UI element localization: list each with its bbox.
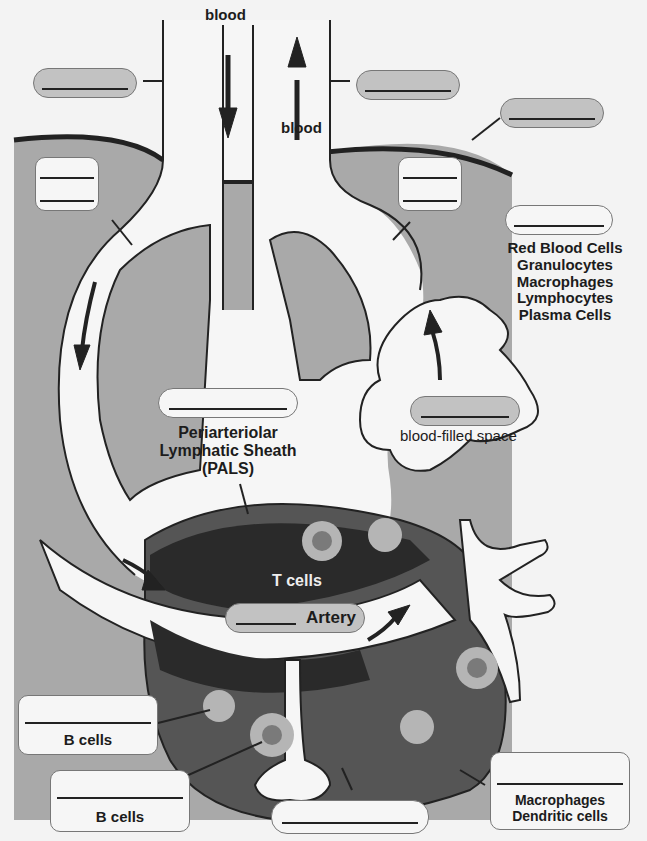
blank-label-capsule[interactable] — [500, 98, 604, 128]
blank-label-germinal-center[interactable]: B cells — [18, 695, 158, 755]
blank-label-vein-left[interactable] — [33, 68, 137, 98]
marginal-cells-labels: MacrophagesDendritic cells — [491, 793, 629, 824]
b-cells-label-2: B cells — [51, 809, 189, 826]
artery-label: Artery — [306, 608, 356, 627]
blank-label-sinusoid[interactable] — [410, 396, 520, 426]
blank-label-marginal-sinus[interactable] — [271, 800, 429, 834]
blank-label-vein-right[interactable] — [356, 70, 460, 100]
blood-space-label: blood-filled space — [400, 428, 517, 445]
blank-label-pals[interactable] — [158, 388, 298, 418]
blood-in-label: blood — [205, 7, 246, 24]
t-cells-label: T cells — [272, 572, 322, 590]
blank-label-trabecular-artery[interactable] — [35, 157, 99, 211]
blank-label-follicle[interactable]: B cells — [50, 770, 190, 832]
blood-out-label: blood — [281, 120, 322, 137]
b-cells-label-1: B cells — [19, 732, 157, 749]
blank-label-central-artery[interactable]: Artery — [225, 603, 365, 633]
blank-label-trabecular-vein[interactable] — [398, 157, 462, 211]
blank-label-marginal-zone[interactable]: MacrophagesDendritic cells — [490, 752, 630, 830]
spleen-diagram: Artery B cells B cells MacrophagesDendri… — [0, 0, 647, 841]
blank-label-red-pulp[interactable] — [505, 205, 613, 235]
pals-title: PeriarteriolarLymphatic Sheath(PALS) — [148, 424, 308, 478]
red-pulp-cell-list: Red Blood CellsGranulocytesMacrophagesLy… — [490, 240, 640, 324]
